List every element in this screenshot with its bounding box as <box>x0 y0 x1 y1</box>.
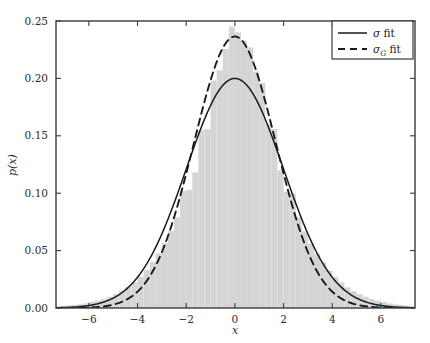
histogram-bar <box>223 49 229 308</box>
histogram-bar <box>180 191 186 308</box>
y-tick-label: 0.20 <box>25 72 48 84</box>
x-tick-label: −6 <box>81 313 97 325</box>
x-tick-label: −2 <box>178 313 193 325</box>
histogram-bar <box>351 291 357 308</box>
histogram-bar <box>290 193 296 308</box>
histogram-bar <box>314 254 320 308</box>
x-tick-label: 4 <box>329 313 336 325</box>
histogram-bar <box>168 231 174 308</box>
histogram-bar <box>229 27 235 308</box>
histogram-bar <box>204 129 210 308</box>
histogram-bar <box>144 270 150 308</box>
histogram-bar <box>235 32 241 308</box>
legend-label-sigma-fit: σ fit <box>373 27 396 39</box>
y-tick-label: 0.05 <box>25 244 48 256</box>
histogram-bar <box>138 277 144 308</box>
histogram-bar <box>174 217 180 308</box>
x-tick-label: −4 <box>130 313 146 325</box>
figure-container: −6−4−20246 0.000.050.100.150.200.25 x p(… <box>0 0 430 343</box>
legend[interactable]: σ fit σG fit <box>332 21 413 59</box>
chart-canvas: −6−4−20246 0.000.050.100.150.200.25 x p(… <box>0 0 430 343</box>
y-tick-label: 0.15 <box>25 129 48 141</box>
histogram-bar <box>277 170 283 308</box>
y-tick-label: 0.10 <box>25 187 48 199</box>
histogram-bar <box>253 72 259 308</box>
y-tick-label: 0.25 <box>25 15 48 27</box>
histogram-bar <box>186 190 192 308</box>
histogram-bar <box>192 173 198 308</box>
histogram-bar <box>284 192 290 308</box>
histogram-bar <box>162 243 168 308</box>
histogram-bar <box>198 130 204 308</box>
y-tick-label: 0.00 <box>25 302 48 314</box>
histogram-bar <box>211 81 217 308</box>
x-axis-label: x <box>232 324 239 337</box>
histogram-bar <box>271 129 277 308</box>
x-tick-label: 2 <box>280 313 287 325</box>
histogram-bar <box>217 70 223 308</box>
y-axis-label: p(x) <box>6 154 19 176</box>
x-tick-label: 6 <box>378 313 385 325</box>
histogram-bar <box>265 124 271 308</box>
